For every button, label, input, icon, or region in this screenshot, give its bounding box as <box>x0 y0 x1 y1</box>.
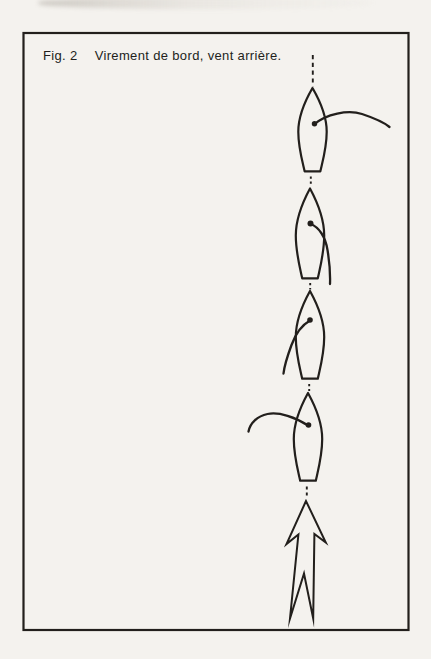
boat-3-hull <box>296 291 324 379</box>
wind-arrow <box>287 501 326 619</box>
boat-3 <box>284 291 325 379</box>
figure-label: Fig. 2 <box>43 48 78 63</box>
figure-title: Virement de bord, vent arrière. <box>95 48 282 63</box>
boat-4-mast-dot <box>306 422 312 428</box>
boat-2 <box>296 189 330 285</box>
figure-border <box>24 33 409 630</box>
figure-caption: Fig. 2 Virement de bord, vent arrière. <box>43 48 282 63</box>
boat-2-hull <box>296 189 324 279</box>
boat-4-hull <box>294 393 322 481</box>
boat-1-mast-dot <box>312 121 317 126</box>
page-background: Fig. 2 Virement de bord, vent arrière. <box>0 0 431 659</box>
scanned-book-page: { "figure": { "label": "Fig. 2", "captio… <box>0 0 431 659</box>
boat-4 <box>249 393 323 481</box>
figure-diagram <box>0 0 431 659</box>
boat-2-mast-dot <box>308 221 314 227</box>
boat-1 <box>298 88 389 171</box>
boat-1-hull <box>298 88 326 171</box>
boat-3-mast-dot <box>307 317 313 323</box>
